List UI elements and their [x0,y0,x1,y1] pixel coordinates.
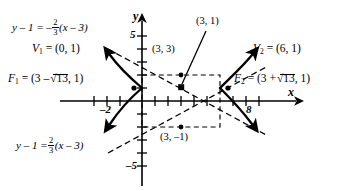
focus-left-point [131,85,136,90]
center-leader-line [182,31,206,84]
center-point [178,84,184,90]
asymptote-bottom-left-rhs: (x – 3) [55,139,84,151]
sqrt-icon: √13 [276,73,295,85]
focus-left-subscript: 1 [15,77,19,86]
focus-right-prefix: = (3 + [248,72,276,84]
focus-right-subscript: 2 [241,77,245,86]
covertex-bottom-point [179,125,184,130]
asymptote-top-left-lhs: y – 1 = – [12,21,52,33]
y-axis-label: y [133,10,138,22]
vertex-right-name: V [253,42,260,54]
covertex-top-point [179,73,184,78]
asymptote-bottom-left-fraction: 23 [48,136,54,154]
vertex-left-name: V [32,42,39,54]
asymptote-bottom-left-denominator: 3 [48,146,54,155]
vertex-left-subscript: 1 [39,47,43,56]
x-axis-label: x [288,86,294,98]
x-tick-minus2-label: –2 [100,104,111,115]
vertex-right-subscript: 2 [260,47,264,56]
focus-left-suffix: , 1) [68,72,83,84]
sqrt-icon: √13 [49,73,68,85]
vertex-right-label: V2 = (6, 1) [253,43,301,56]
focus-right-name: F [234,72,241,84]
covertex-top-label: (3, 3) [152,44,175,55]
vertex-left-value: = (0, 1) [46,42,80,54]
hyperbola-figure: y – 1 = –23(x – 3) y – 1 =23(x – 3) V1 =… [0,0,345,191]
y-tick-5-label: 5 [130,29,136,40]
asymptote-top-left-label: y – 1 = –23(x – 3) [12,18,88,36]
asymptote-bottom-left-lhs: y – 1 = [16,139,48,151]
covertex-bottom-label: (3, –1) [160,132,188,143]
vertex-right-value: = (6, 1) [267,42,301,54]
asymptote-top-left-fraction: 23 [52,18,58,36]
asymptote-bottom-left-label: y – 1 =23(x – 3) [16,136,84,154]
x-axis [60,96,296,106]
focus-right-suffix: , 1) [295,72,310,84]
asymptote-top-left-rhs: (x – 3) [59,21,88,33]
y-axis [137,21,147,186]
focus-right-label: F2 = (3 +√13, 1) [234,73,310,86]
focus-right-point [225,85,230,90]
focus-left-prefix: = (3 – [22,72,50,84]
focus-left-label: F1 = (3 –√13, 1) [8,73,83,86]
asymptote-top-left-denominator: 3 [52,28,58,37]
center-label: (3, 1) [196,16,219,27]
asymptote-negative-slope [108,49,268,136]
y-tick-minus5-label: –5 [126,160,137,171]
focus-left-name: F [8,72,15,84]
x-tick-8-label: 8 [246,104,252,115]
vertex-left-label: V1 = (0, 1) [32,43,80,56]
